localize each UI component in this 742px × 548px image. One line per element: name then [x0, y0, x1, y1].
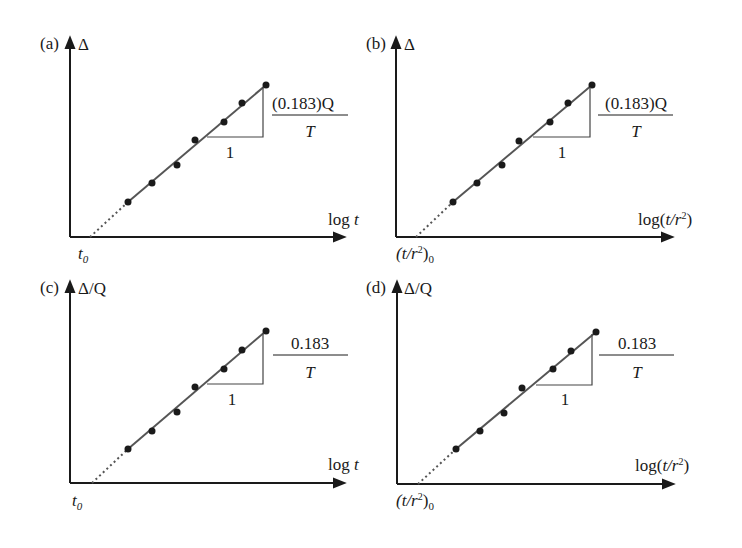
panel-tag: (d) — [366, 278, 386, 297]
x-axis-label: log(t/r2) — [635, 456, 689, 475]
run-label: 1 — [558, 143, 567, 162]
y-axis-label: Δ/Q — [78, 279, 106, 298]
slope-denominator: T — [305, 122, 316, 141]
origin-label: (t/r2)0 — [396, 244, 434, 265]
y-axis-label: Δ — [404, 35, 415, 54]
panel-tag: (a) — [40, 34, 59, 53]
panel-a: (a) Δ log t t0 1 (0.183)Q T — [40, 34, 360, 265]
origin-label: t0 — [78, 244, 89, 265]
y-axis-label: Δ — [78, 35, 89, 54]
panel-b: (b) Δ log(t/r2) (t/r2)0 1 (0.183)Q T — [366, 34, 692, 265]
slope-numerator: (0.183)Q — [605, 94, 667, 113]
x-axis-label: log(t/r2) — [638, 210, 692, 229]
slope-numerator: 0.183 — [618, 334, 656, 353]
run-label: 1 — [226, 143, 235, 162]
x-axis-label: log t — [328, 210, 360, 229]
slope-denominator: T — [631, 122, 642, 141]
origin-label: (t/r2)0 — [396, 491, 434, 512]
figure: (a) Δ log t t0 1 (0.183)Q T (b) Δ log(t/… — [0, 0, 742, 548]
extrapolation-line — [416, 202, 453, 237]
y-axis-label: Δ/Q — [404, 279, 432, 298]
origin-label: t0 — [72, 491, 83, 512]
extrapolation-line — [92, 449, 128, 483]
panel-tag: (b) — [366, 34, 386, 53]
run-label: 1 — [228, 390, 237, 409]
run-label: 1 — [561, 390, 570, 409]
slope-numerator: (0.183)Q — [272, 94, 334, 113]
panel-c: (c) Δ/Q log t t0 1 0.183 T — [40, 278, 360, 512]
slope-denominator: T — [305, 363, 316, 382]
slope-denominator: T — [632, 363, 643, 382]
extrapolation-line — [418, 449, 456, 484]
panel-d: (d) Δ/Q log(t/r2) (t/r2)0 1 0.183 T — [366, 278, 689, 512]
panel-tag: (c) — [40, 278, 59, 297]
slope-numerator: 0.183 — [291, 334, 329, 353]
x-axis-label: log t — [328, 455, 360, 474]
extrapolation-line — [90, 202, 128, 237]
